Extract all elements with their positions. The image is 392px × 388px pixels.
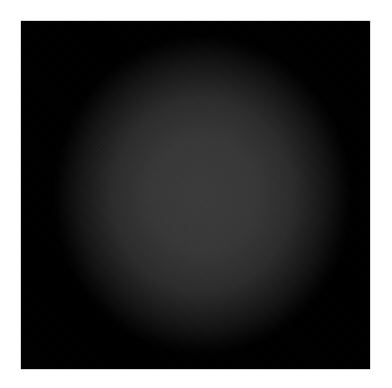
noise-texture xyxy=(21,21,370,369)
image-canvas xyxy=(21,21,370,369)
